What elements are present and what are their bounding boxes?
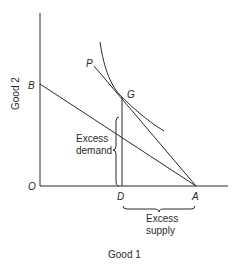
price-line-pa [94,66,196,186]
excess-supply-label-line1: Excess [146,213,178,224]
point-label-d: D [117,191,124,202]
point-label-g: G [127,89,135,100]
excess-demand-brace [113,117,119,186]
y-axis-label: Good 2 [10,77,21,110]
point-label-b: B [28,80,35,91]
point-label-a: A [191,191,199,202]
excess-demand-label-line2: demand [76,145,112,156]
point-label-p: P [86,58,93,69]
origin-label: O [28,181,36,192]
excess-supply-brace [123,206,195,212]
excess-demand-label-line1: Excess [76,133,108,144]
excess-supply-label-line2: supply [146,225,175,236]
diagram-canvas: B O D A G P Excess demand Excess supply … [0,0,238,269]
x-axis-label: Good 1 [108,249,141,260]
indifference-curve [100,42,164,131]
budget-line-ab [40,84,196,186]
